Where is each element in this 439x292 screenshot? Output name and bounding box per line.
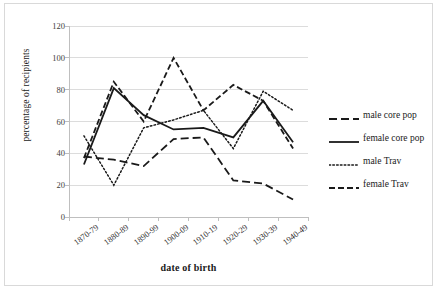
plot-area xyxy=(69,26,308,217)
x-axis-tick-label: 1900-09 xyxy=(161,222,190,247)
legend-item-label: male core pop xyxy=(363,110,417,120)
y-axis-tick-label: 60 xyxy=(35,118,65,127)
y-axis-tick-label: 40 xyxy=(35,149,65,158)
chart-lines-svg xyxy=(69,26,308,217)
legend-item-label: female Trav xyxy=(363,179,409,189)
y-axis-tick-label: 100 xyxy=(35,54,65,63)
chart-frame: percentage of recipients 120100806040200… xyxy=(4,3,433,286)
chart-legend: male core popfemale core popmale Travfem… xyxy=(329,103,434,195)
x-axis-tick-labels: 1870-791880-891890-991900-091910-191920-… xyxy=(69,220,308,260)
series-line-male-core-pop xyxy=(84,137,293,199)
x-axis-tick-label: 1880-89 xyxy=(102,222,131,247)
legend-item-label: female core pop xyxy=(363,133,424,143)
legend-item[interactable]: female core pop xyxy=(329,126,434,149)
y-axis-title: percentage of recipients xyxy=(21,30,31,160)
legend-item[interactable]: female Trav xyxy=(329,172,434,195)
y-axis-tick-labels: 120100806040200 xyxy=(33,26,65,217)
series-line-female-trav xyxy=(84,58,293,158)
legend-line-sample-icon xyxy=(329,156,359,166)
y-axis-tick-label: 20 xyxy=(35,181,65,190)
legend-line-sample-icon xyxy=(329,110,359,120)
legend-line-sample-icon xyxy=(329,133,359,143)
x-axis-tick-label: 1920-29 xyxy=(221,222,250,247)
legend-item[interactable]: male Trav xyxy=(329,149,434,172)
legend-item[interactable]: male core pop xyxy=(329,103,434,126)
x-axis-tick-label: 1870-79 xyxy=(72,222,101,247)
y-axis-tick-label: 80 xyxy=(35,86,65,95)
x-axis-tick-label: 1890-99 xyxy=(131,222,160,247)
x-axis-tick-label: 1910-19 xyxy=(191,222,220,247)
x-axis-tick-label: 1940-49 xyxy=(281,222,310,247)
x-axis-tick-label: 1930-39 xyxy=(251,222,280,247)
x-axis-title: date of birth xyxy=(69,262,308,273)
y-axis-tick-label: 120 xyxy=(35,22,65,31)
legend-item-label: male Trav xyxy=(363,156,401,166)
y-axis-tick-label: 0 xyxy=(35,213,65,222)
legend-line-sample-icon xyxy=(329,179,359,189)
